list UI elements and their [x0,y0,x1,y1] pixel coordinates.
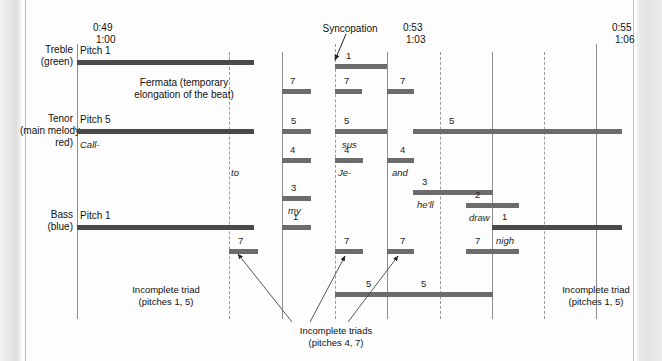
syncopation-leader [335,34,346,60]
caption-mid-line1: Incomplete triads [266,325,406,337]
row-label-tenor-color-1: (main melody- [20,125,73,137]
syncopation-note: Syncopation [305,23,395,35]
bar-treble-7a [282,89,311,94]
num-bass-7c: 7 [400,236,405,246]
bass-pitch-label: Pitch 1 [80,210,111,221]
row-label-tenor-color-2: red) [20,137,73,149]
figure-canvas: 0:49 1:00 0:53 1:03 0:55 1:06 Treble (gr… [0,0,662,361]
bar-bass-7c [387,249,414,254]
timeline-plot: 0:49 1:00 0:53 1:03 0:55 1:06 Treble (gr… [26,0,633,361]
fermata-note-line1: Fermata (temporary [114,77,254,89]
bar-bass-3b [413,190,493,195]
num-treble-7a: 7 [290,76,295,86]
fermata-note-line2: elongation of the beat) [114,89,254,101]
timecode-3-top: 0:55 [612,22,631,33]
num-bass-7d: 7 [475,236,480,246]
treble-pitch-label: Pitch 1 [80,45,111,56]
bar-bass-pitch1-long [77,225,254,230]
caption-right-line2: (pitches 1, 5) [531,296,661,308]
bar-bass-2a [466,203,519,208]
bar-bass-1-long [492,225,622,230]
lyric-nigh: nigh [496,236,514,246]
num-tenor-4a: 4 [290,145,295,155]
bar-bass-5b [413,292,493,297]
row-label-bass-color: (blue) [26,221,73,233]
bar-bass-7b [335,249,363,254]
triad-leader-a [238,254,292,322]
timecode-1-top: 0:49 [93,22,112,33]
bar-tenor-5-long [413,129,622,134]
num-bass-5b: 5 [421,279,426,289]
bar-treble-pitch1-long [77,60,254,65]
lyric-and: and [392,168,408,178]
subdivision-line-2 [335,44,336,319]
timecode-3-bottom: 1:06 [615,34,634,45]
triad-leader-c [348,256,398,322]
num-treble-1-sync: 1 [346,51,351,61]
row-label-treble-color: (green) [26,56,73,68]
num-bass-3a: 3 [291,183,296,193]
num-bass-1a: 1 [293,212,298,222]
tenor-pitch-label: Pitch 5 [80,114,111,125]
bar-tenor-4a [282,158,311,163]
bar-tenor-4b [335,158,363,163]
num-treble-7b: 7 [344,76,349,86]
bar-tenor-4c [387,158,414,163]
lyric-to: to [231,168,239,178]
bar-treble-7c [387,89,414,94]
beat-line-1 [77,44,78,319]
row-label-treble: Treble [26,44,73,56]
lyric-call: Call- [80,140,100,150]
caption-mid-line2: (pitches 4, 7) [266,337,406,349]
lyric-draw: draw [469,213,490,223]
subdivision-line-3 [440,52,441,319]
num-bass-1b: 1 [502,212,507,222]
num-bass-7a: 7 [238,236,243,246]
timecode-2-bottom: 1:03 [406,34,425,45]
bar-tenor-5b [335,129,387,134]
beat-line-4 [492,52,493,319]
beat-line-5 [596,44,597,319]
page-gutter-left [0,0,22,361]
lyric-hell: he'll [417,200,434,210]
timecode-2-top: 0:53 [403,22,422,33]
num-bass-2a: 2 [475,190,480,200]
subdivision-line-4 [544,52,545,319]
bar-treble-7b [335,89,362,94]
caption-left-line1: Incomplete triad [101,284,231,296]
num-bass-5a: 5 [366,279,371,289]
bar-bass-1a [282,225,311,230]
num-tenor-5c: 5 [449,116,454,126]
triad-leader-b [310,256,345,322]
bar-bass-7a [229,249,258,254]
bar-bass-3a [282,196,311,201]
num-tenor-4c: 4 [400,145,405,155]
lyric-je: Je- [338,168,351,178]
caption-left-line2: (pitches 1, 5) [101,296,231,308]
caption-right-line1: Incomplete triad [531,284,661,296]
row-label-tenor: Tenor [20,113,73,125]
lyric-sus: sus [342,140,357,150]
row-label-bass: Bass [26,209,73,221]
num-tenor-5b: 5 [344,116,349,126]
bar-treble-1-sync [335,64,387,69]
bar-bass-5a [335,292,415,297]
bar-bass-7d [466,249,519,254]
timecode-1-bottom: 1:00 [96,34,115,45]
bar-tenor-pitch5-long [77,129,254,134]
bar-tenor-5a [282,129,311,134]
num-treble-7c: 7 [400,76,405,86]
num-tenor-5a: 5 [291,116,296,126]
num-bass-7b: 7 [344,236,349,246]
num-bass-3b: 3 [422,177,427,187]
